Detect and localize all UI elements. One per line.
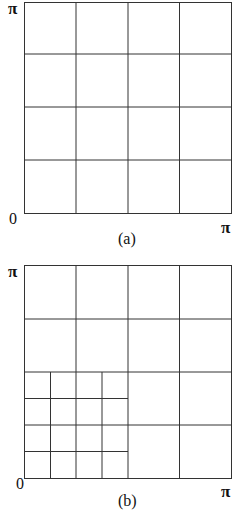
panel-b-y-max-label: π [8,262,18,281]
panel-a-x-max-label: π [221,218,231,237]
panel-b-origin-label: 0 [16,475,24,492]
panel-a-origin-label: 0 [9,210,17,227]
panel-b [25,266,232,479]
panel-b-caption: (b) [118,492,137,510]
panel-b-x-max-label: π [221,482,231,501]
panel-a [25,3,232,214]
figure: π 0 π (a) π 0 π (b) [0,0,238,513]
panel-a-y-max-label: π [8,0,18,18]
panel-a-caption: (a) [118,230,136,248]
